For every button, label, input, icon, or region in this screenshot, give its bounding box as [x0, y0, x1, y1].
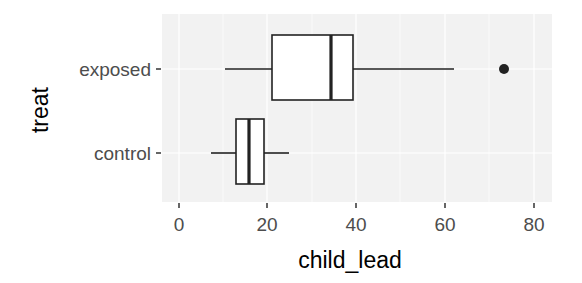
x-tick-40: 40	[345, 214, 366, 235]
plot-panel	[162, 14, 552, 202]
y-axis-title: treat	[27, 86, 53, 133]
outlier-point	[499, 64, 509, 74]
x-axis-title: child_lead	[298, 247, 402, 273]
x-tick-80: 80	[523, 214, 544, 235]
x-tick-0: 0	[174, 214, 185, 235]
x-tick-60: 60	[434, 214, 455, 235]
y-ticks	[156, 69, 161, 153]
boxplot-chart: exposed control 0 20 40 60 80 child_lead…	[0, 0, 582, 283]
x-ticks	[179, 203, 534, 208]
y-tick-exposed: exposed	[79, 59, 151, 80]
x-tick-20: 20	[256, 214, 277, 235]
y-tick-control: control	[94, 143, 151, 164]
